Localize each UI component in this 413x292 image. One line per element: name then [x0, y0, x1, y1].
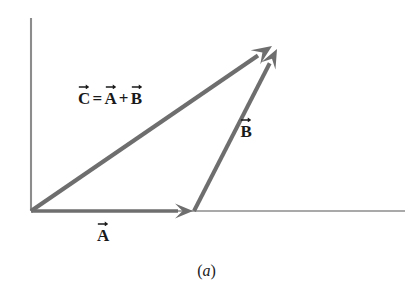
vector-a-letter: A: [104, 90, 116, 107]
vector-addition-figure: C = A + B B: [0, 0, 413, 292]
coordinate-axes: [31, 18, 405, 211]
vector-a-letter: A: [97, 227, 109, 244]
vector-a: [31, 204, 193, 219]
vector-c-label: C = A + B: [78, 83, 142, 107]
vector-b-symbol: B: [241, 116, 252, 140]
vector-b-letter: B: [131, 90, 143, 107]
vector-c-letter: C: [78, 90, 90, 107]
vector-b-label: B: [241, 116, 252, 140]
vector-b-symbol-in-equation: B: [131, 83, 143, 107]
vector-diagram-canvas: [0, 0, 413, 292]
figure-caption: (a): [0, 262, 413, 280]
vector-c-shaft: [31, 56, 258, 211]
caption-paren-close: ): [211, 262, 216, 279]
vector-a-symbol-in-equation: A: [104, 83, 116, 107]
plus-sign: +: [117, 89, 131, 108]
vector-a-label: A: [97, 220, 109, 244]
vector-c-symbol: C: [78, 83, 90, 107]
vector-c-arrowhead: [251, 46, 272, 64]
vector-b-letter: B: [241, 123, 252, 140]
caption-letter: a: [203, 262, 211, 279]
equals-sign: =: [90, 89, 104, 108]
vector-b-shaft: [194, 63, 270, 211]
vector-a-symbol: A: [97, 220, 109, 244]
